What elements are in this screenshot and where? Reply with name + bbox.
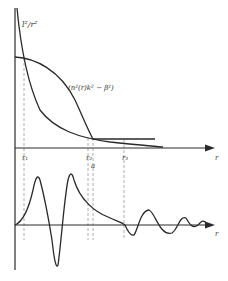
potential-label: (n²(r)k² − β²) (68, 84, 114, 92)
marker-r3: r₃ (122, 154, 128, 162)
potential-curve (15, 57, 155, 139)
marker-a: a (91, 162, 95, 170)
bottom-axis-arrow-icon (205, 222, 215, 229)
top-axis-arrow-icon (205, 145, 215, 152)
wave-function-curve (15, 174, 206, 266)
top-axis-label: r (215, 154, 219, 162)
diagram-canvas: l²/r² (n²(r)k² − β²) r₁ r₂ a r₃ r r (0, 0, 228, 281)
marker-r1: r₁ (22, 154, 28, 162)
bottom-axis-label: r (215, 230, 219, 238)
centrifugal-curve (17, 8, 163, 147)
marker-r2: r₂ (86, 154, 92, 162)
centrifugal-label: l²/r² (22, 20, 38, 29)
